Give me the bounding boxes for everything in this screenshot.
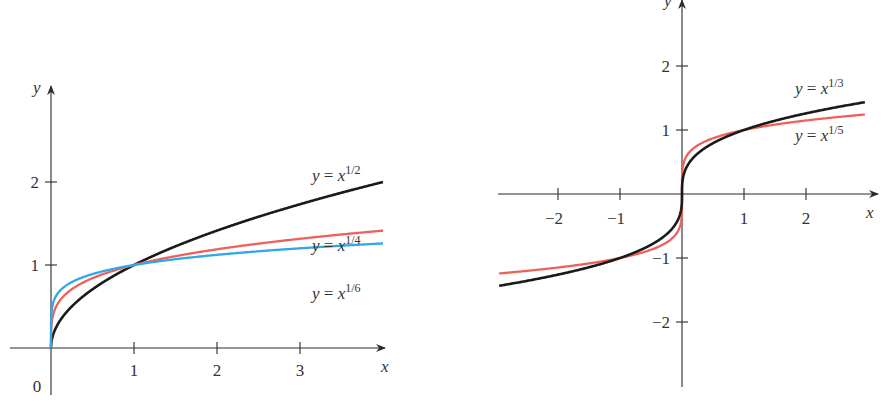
x-tick-label: −1 — [607, 209, 625, 228]
y-tick-label: 1 — [662, 121, 671, 140]
y-axis-label: y — [662, 0, 672, 10]
y-tick-label: −2 — [652, 313, 670, 332]
curve-1-2 — [51, 182, 383, 348]
x-tick-label: 1 — [130, 361, 139, 380]
x-tick-label: 2 — [802, 209, 811, 228]
y-axis-label: y — [31, 78, 41, 97]
y-tick-label: −1 — [652, 249, 670, 268]
origin-label: 0 — [33, 377, 42, 396]
series-label-x-1-4: y = x1/4 — [310, 233, 361, 255]
series-label-x-1-2: y = x1/2 — [310, 163, 361, 185]
series-label-x-1-5: y = x1/5 — [793, 123, 844, 145]
series-label-x-1-3: y = x1/3 — [793, 76, 844, 98]
x-tick-label: −2 — [545, 209, 563, 228]
y-tick-label: 1 — [31, 256, 40, 275]
x-tick-label: 1 — [740, 209, 749, 228]
right-axes: −2−11221−1−2xy — [498, 0, 878, 387]
y-tick-label: 2 — [662, 57, 671, 76]
x-axis-label: x — [380, 357, 389, 376]
x-tick-label: 2 — [213, 361, 222, 380]
x-tick-label: 3 — [296, 361, 305, 380]
left-labels: y = x1/2y = x1/4y = x1/6 — [310, 163, 361, 303]
y-tick-label: 2 — [31, 173, 40, 192]
series-label-x-1-6: y = x1/6 — [310, 281, 361, 303]
left-curves — [51, 182, 383, 348]
x-axis-label: x — [865, 203, 874, 222]
chart-left-even-roots: 123120xy y = x1/2y = x1/4y = x1/6 −2−112… — [0, 0, 884, 401]
